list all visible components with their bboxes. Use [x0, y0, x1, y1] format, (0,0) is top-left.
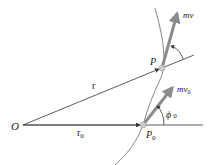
angle-arc-p	[171, 46, 183, 59]
angle-label: ϕ0	[166, 109, 177, 120]
origin-label: O	[11, 120, 19, 132]
momentum-label: mv	[183, 10, 194, 20]
particle-p0	[140, 122, 146, 128]
angle-arc-p0	[157, 106, 164, 125]
initial-position-vector-label: r0	[77, 127, 84, 140]
trajectory-curve	[115, 8, 164, 165]
initial-momentum-label: mv0	[177, 84, 191, 95]
point-p-label: P	[149, 56, 156, 67]
particle-p	[159, 65, 165, 71]
position-vector-label: r	[92, 80, 96, 91]
position-vector	[23, 69, 159, 125]
point-p0-label: P0	[145, 129, 156, 142]
momentum-arrow	[162, 14, 177, 68]
angular-momentum-diagram: O r r0 P P0 mv mv0 ϕ0	[0, 0, 213, 165]
radial-extension-line	[162, 55, 194, 68]
